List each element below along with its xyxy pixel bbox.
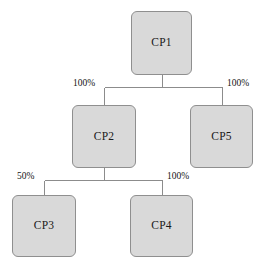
edge-label-cp1-cp2: 100% — [73, 79, 95, 89]
node-cp1-label: CP1 — [151, 37, 171, 49]
node-cp5[interactable]: CP5 — [190, 105, 253, 168]
node-cp1[interactable]: CP1 — [131, 11, 192, 75]
node-cp2-label: CP2 — [94, 130, 114, 142]
edge-label-cp2-cp4: 100% — [167, 172, 189, 182]
node-cp3[interactable]: CP3 — [12, 195, 76, 257]
edge-label-cp2-cp3: 50% — [17, 172, 34, 182]
diagram-canvas: CP1 CP2 CP5 CP3 CP4 100% 100% 50% 100% — [0, 0, 261, 269]
node-cp2[interactable]: CP2 — [72, 105, 136, 168]
node-cp4-label: CP4 — [151, 220, 171, 232]
node-cp4[interactable]: CP4 — [130, 195, 193, 257]
edge-label-cp1-cp5: 100% — [227, 79, 249, 89]
node-cp3-label: CP3 — [34, 220, 54, 232]
node-cp5-label: CP5 — [211, 130, 231, 142]
